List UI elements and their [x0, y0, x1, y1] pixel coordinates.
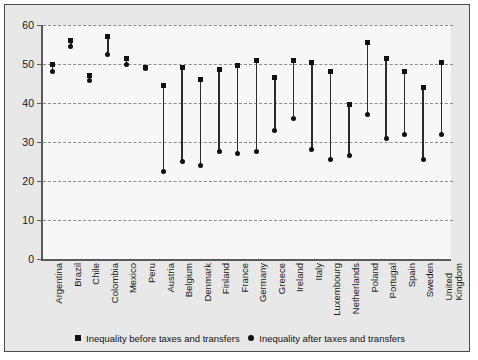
data-point-before: [217, 67, 222, 72]
connector-line: [237, 66, 239, 154]
y-axis-tick-label: 40: [22, 97, 34, 109]
data-point-before: [439, 60, 444, 65]
gridline: [43, 181, 453, 182]
legend-item-before: Inequality before taxes and transfers: [75, 333, 240, 344]
data-point-after: [384, 136, 389, 141]
x-axis-tick-label: Netherlands: [351, 263, 361, 314]
connector-line: [348, 105, 350, 156]
connector-line: [404, 72, 406, 134]
y-axis-tick: [37, 142, 43, 143]
connector-line: [311, 62, 313, 150]
y-axis-tick-label: 50: [22, 58, 34, 70]
connector-line: [367, 43, 369, 115]
connector-line: [441, 62, 443, 134]
data-point-after: [198, 163, 203, 168]
data-point-after: [439, 132, 444, 137]
x-axis-tick-label: Ireland: [295, 263, 305, 292]
y-axis-tick: [37, 181, 43, 182]
legend-item-after: Inequality after taxes and transfers: [248, 333, 405, 344]
x-axis-tick-label: France: [240, 263, 250, 293]
y-axis-tick: [37, 103, 43, 104]
x-axis-tick-label: Spain: [407, 263, 417, 287]
data-point-after: [180, 159, 185, 164]
x-axis-tick-label: Poland: [370, 263, 380, 293]
x-axis-tick-label: Denmark: [203, 263, 213, 302]
x-axis-tick-label: Peru: [147, 263, 157, 283]
x-axis-tick-label: Germany: [258, 263, 268, 302]
data-point-before: [161, 83, 166, 88]
data-point-after: [143, 66, 148, 71]
data-point-after: [161, 169, 166, 174]
data-point-after: [291, 116, 296, 121]
chart-figure: 0102030405060 ArgentinaBrazilChileColomb…: [4, 4, 470, 352]
legend-label-before: Inequality before taxes and transfers: [86, 333, 240, 344]
data-point-before: [105, 34, 110, 39]
y-axis-tick: [37, 25, 43, 26]
connector-line: [422, 87, 424, 159]
x-axis-tick-label: Italy: [314, 263, 324, 280]
gridline: [43, 25, 453, 26]
data-point-before: [328, 69, 333, 74]
connector-line: [385, 58, 387, 138]
x-axis-tick-label: Sweden: [425, 263, 435, 297]
y-axis-tick-label: 0: [28, 253, 34, 265]
x-axis-labels: ArgentinaBrazilChileColombiaMexicoPeruAu…: [41, 263, 451, 325]
connector-line: [293, 60, 295, 119]
data-point-after: [87, 78, 92, 83]
gridline: [43, 220, 453, 221]
data-point-before: [124, 56, 129, 61]
connector-line: [218, 70, 220, 152]
data-point-before: [254, 58, 259, 63]
data-point-before: [180, 65, 185, 70]
connector-line: [256, 60, 258, 152]
x-axis-tick-label: Colombia: [110, 263, 120, 303]
gridline: [43, 64, 453, 65]
data-point-before: [402, 69, 407, 74]
data-point-after: [235, 151, 240, 156]
connector-line: [200, 80, 202, 166]
data-point-before: [272, 75, 277, 80]
x-axis-tick-label: Chile: [91, 263, 101, 285]
chart-legend: Inequality before taxes and transfers In…: [75, 329, 405, 347]
y-axis-tick: [37, 259, 43, 260]
data-point-before: [68, 38, 73, 43]
square-marker-icon: [75, 335, 81, 341]
data-point-before: [384, 56, 389, 61]
x-axis-tick-label: Brazil: [73, 263, 83, 287]
data-point-before: [235, 63, 240, 68]
x-axis-tick-label: Finland: [221, 263, 231, 294]
y-axis-tick: [37, 220, 43, 221]
data-point-after: [50, 69, 55, 74]
data-point-after: [328, 157, 333, 162]
legend-label-after: Inequality after taxes and transfers: [259, 333, 405, 344]
data-point-before: [291, 58, 296, 63]
data-point-after: [217, 149, 222, 154]
y-axis-tick-label: 10: [22, 214, 34, 226]
data-point-after: [272, 128, 277, 133]
gridline: [43, 142, 453, 143]
data-point-after: [365, 112, 370, 117]
gridline: [43, 103, 453, 104]
x-axis-tick-label: Portugal: [388, 263, 398, 298]
data-point-before: [198, 77, 203, 82]
y-axis-tick-label: 60: [22, 19, 34, 31]
connector-line: [274, 78, 276, 131]
x-axis-tick-label: Luxembourg: [332, 263, 342, 316]
data-point-before: [309, 60, 314, 65]
circle-marker-icon: [248, 335, 254, 341]
connector-line: [163, 85, 165, 171]
y-axis-tick: [37, 64, 43, 65]
data-point-after: [309, 147, 314, 152]
plot-area: 0102030405060: [41, 25, 451, 261]
data-point-before: [50, 62, 55, 67]
data-point-before: [347, 102, 352, 107]
data-point-after: [402, 132, 407, 137]
data-point-after: [105, 52, 110, 57]
y-axis-tick-label: 20: [22, 175, 34, 187]
x-axis-tick-label: Mexico: [128, 263, 138, 293]
x-axis-tick-label: Austria: [166, 263, 176, 293]
data-point-after: [421, 157, 426, 162]
connector-line: [330, 72, 332, 160]
data-point-after: [124, 62, 129, 67]
data-point-after: [347, 153, 352, 158]
